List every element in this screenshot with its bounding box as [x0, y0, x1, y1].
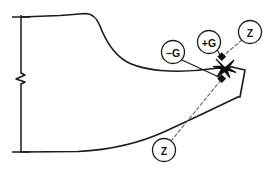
callout-z-lower[interactable]: Z [153, 139, 176, 162]
engineering-drawing-canvas: −G +G Z Z [0, 0, 276, 169]
leader-dot-upper [217, 52, 226, 61]
callout-plus-g[interactable]: +G [198, 31, 221, 54]
drawing-svg: −G +G Z Z [0, 0, 276, 169]
callout-balloons-group: −G +G Z Z [153, 21, 262, 162]
callout-minus-g[interactable]: −G [162, 41, 185, 64]
centerline-group [12, 15, 30, 152]
leader-line-z-lower [171, 80, 221, 141]
leader-line-z-upper [223, 40, 242, 56]
callout-z-upper-label: Z [247, 27, 254, 39]
callout-z-upper[interactable]: Z [239, 21, 262, 44]
lower-profile-curve [21, 97, 238, 152]
lower-profile-group [21, 97, 238, 152]
break-symbol-icon [16, 73, 25, 84]
callout-z-lower-label: Z [161, 145, 168, 157]
callout-plus-g-label: +G [202, 37, 216, 49]
callout-minus-g-label: −G [166, 47, 180, 59]
